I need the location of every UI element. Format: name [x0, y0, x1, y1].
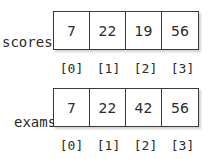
- array-cell: 19: [126, 12, 162, 49]
- array-label: scores: [2, 34, 53, 50]
- array-cell: 22: [90, 89, 126, 126]
- array-cell: 7: [54, 89, 90, 126]
- array-cell: 56: [162, 89, 198, 126]
- array-box: 7 22 42 56: [53, 88, 199, 127]
- index-label: [1]: [90, 138, 127, 153]
- array-cell: 56: [162, 12, 198, 49]
- array-box: 7 22 19 56: [53, 11, 199, 50]
- index-label: [3]: [164, 138, 201, 153]
- index-label: [0]: [53, 138, 90, 153]
- index-label: [3]: [164, 61, 201, 76]
- index-labels: [0] [1] [2] [3]: [53, 138, 201, 153]
- index-label: [2]: [127, 138, 164, 153]
- index-label: [1]: [90, 61, 127, 76]
- array-cell: 42: [126, 89, 162, 126]
- index-label: [0]: [53, 61, 90, 76]
- array-cell: 7: [54, 12, 90, 49]
- array-label: exams: [14, 114, 56, 130]
- index-labels: [0] [1] [2] [3]: [53, 61, 201, 76]
- index-label: [2]: [127, 61, 164, 76]
- array-cell: 22: [90, 12, 126, 49]
